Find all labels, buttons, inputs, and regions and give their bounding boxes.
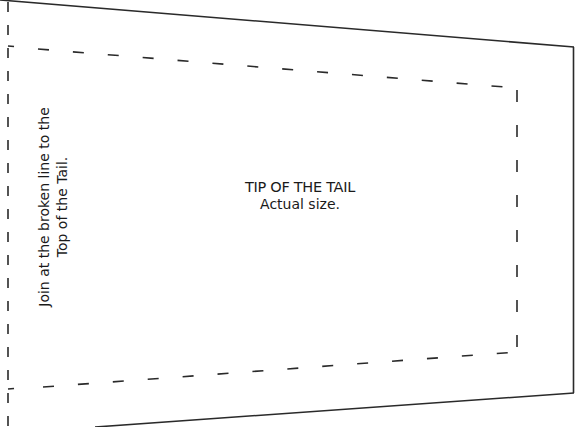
- top-join-tick: [8, 46, 14, 47]
- join-instruction-line-1: Join at the broken line to the: [35, 102, 53, 312]
- stitch-line-top: [38, 49, 517, 88]
- cut-outline: [0, 0, 574, 427]
- bottom-cut-line: [95, 393, 574, 427]
- pattern-piece-diagram: [0, 0, 575, 427]
- stitch-dashed-line: [38, 49, 517, 387]
- join-instruction: Join at the broken line to the Top of th…: [35, 102, 71, 312]
- bottom-join-tick: [8, 389, 14, 390]
- join-instruction-line-2: Top of the Tail.: [53, 102, 71, 312]
- pattern-title: TIP OF THE TAIL: [200, 179, 400, 196]
- join-broken-line: [8, 0, 14, 427]
- top-cut-line: [0, 0, 574, 47]
- stitch-line-bottom: [43, 352, 517, 387]
- pattern-subtitle: Actual size.: [200, 196, 400, 213]
- pattern-title-block: TIP OF THE TAIL Actual size.: [200, 179, 400, 213]
